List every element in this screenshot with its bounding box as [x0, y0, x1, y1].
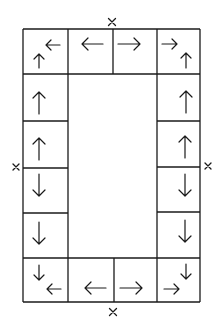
bottom-mark-icon: [110, 309, 117, 316]
arrow-right-icon: [118, 38, 140, 50]
arrow-down-icon: [179, 174, 191, 196]
arrow-up-icon: [181, 53, 191, 68]
arrow-right-icon: [120, 282, 142, 294]
right-mark-icon: [205, 163, 211, 169]
arrow-down-icon: [34, 265, 44, 280]
arrow-up-icon: [180, 91, 192, 113]
arrow-left-icon: [85, 282, 106, 294]
arrow-down-icon: [179, 220, 191, 242]
arrow-left-icon: [82, 38, 103, 50]
arrow-down-icon: [181, 264, 191, 279]
left-mark-icon: [13, 164, 19, 170]
arrow-up-icon: [34, 54, 44, 68]
arrow-right-icon: [164, 284, 179, 294]
arrow-up-icon: [179, 136, 191, 158]
arrow-left-icon: [47, 284, 61, 294]
grid-lines: [23, 29, 200, 302]
arrow-up-icon: [33, 138, 45, 160]
arrow-left-icon: [46, 40, 60, 50]
arrow-right-icon: [162, 39, 177, 49]
grid-diagram: [0, 0, 224, 332]
arrow-down-icon: [33, 222, 45, 244]
arrow-up-icon: [33, 92, 45, 114]
arrow-down-icon: [33, 174, 45, 196]
top-mark-icon: [109, 19, 116, 26]
